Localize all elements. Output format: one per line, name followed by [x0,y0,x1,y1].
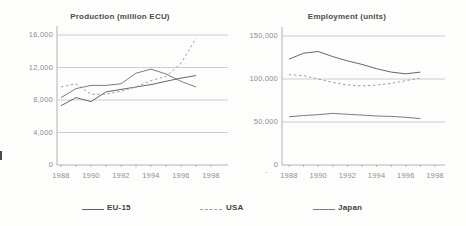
production-y-tick-label: 8,000 [21,95,53,104]
production-x-tick-label: 1994 [138,171,164,180]
legend-label-japan: Japan [338,203,362,212]
production-y-tick-label: 0 [21,160,53,169]
employment-y-tick-label: 100,000 [242,74,278,83]
production-chart-title: Production (million ECU) [50,12,190,21]
production-x-tick-label: 1996 [168,171,194,180]
production-y-tick-label: 4,000 [21,128,53,137]
production-y-tick-label: 12,000 [21,63,53,72]
employment-x-tick-label: 1988 [276,171,302,180]
employment-y-tick-label: 50,000 [242,117,278,126]
employment-y-tick-label: 150,000 [242,31,278,40]
production-series-japan [61,69,196,98]
employment-x-tick-label: 1994 [364,171,390,180]
production-x-tick-label: 1990 [78,171,104,180]
production-y-tick-label: 16,000 [21,30,53,39]
production-x-tick-label: 1988 [48,171,74,180]
scan-edge-artifact [0,151,2,160]
employment-x-tick-label: 1990 [305,171,331,180]
usa-line-sample-icon [200,209,222,210]
eu15-line-sample-icon [82,209,104,210]
production-series-eu-15 [61,76,196,106]
production-x-tick-label: 1998 [198,171,224,180]
legend-label-eu15: EU-15 [107,203,131,212]
production-x-tick-label: 1992 [108,171,134,180]
production-employment-figure: Production (million ECU) Employment (uni… [0,0,466,226]
charts-plot-area [0,0,466,226]
employment-x-tick-label: 1992 [334,171,360,180]
employment-y-tick-label: 0 [242,160,278,169]
japan-line-sample-icon [313,209,335,210]
employment-series-usa [289,75,420,86]
production-series-usa [61,38,196,94]
employment-series-japan [289,113,420,118]
employment-chart-title: Employment (units) [277,12,417,21]
employment-series-eu-15 [289,52,420,74]
employment-x-tick-label: 1998 [422,171,448,180]
legend-label-usa: USA [226,203,244,212]
employment-x-tick-label: 1996 [393,171,419,180]
